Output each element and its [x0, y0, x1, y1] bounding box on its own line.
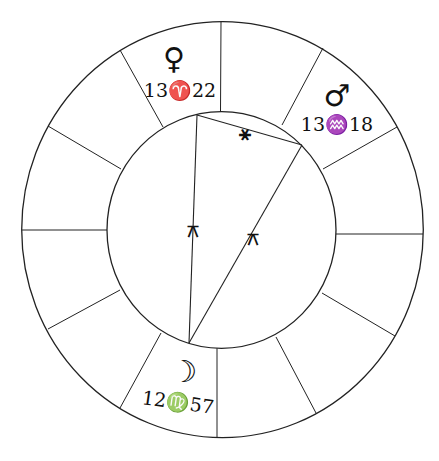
mars-position: 13♒18 — [301, 113, 373, 136]
aspect-lines — [189, 115, 302, 343]
aspect-line-mars-moon — [189, 145, 302, 343]
house-dividers — [22, 22, 423, 438]
house-divider — [48, 126, 121, 169]
house-divider — [221, 22, 222, 112]
quincunx-icon: ⚻ — [247, 228, 259, 249]
astrology-chart-wheel: ⚹ ⚻ ⚻ ♀ 13♈22 ♂ 13♒18 ☽ 12♍57 — [0, 0, 439, 461]
quincunx-icon: ⚻ — [187, 220, 199, 241]
mars-icon: ♂ — [324, 78, 351, 113]
planet-mars: ♂ 13♒18 — [301, 78, 373, 136]
inner-ring — [107, 112, 336, 349]
venus-icon: ♀ — [163, 41, 185, 76]
sextile-icon: ⚹ — [239, 121, 251, 145]
planet-venus: ♀ 13♈22 — [144, 41, 216, 102]
moon-position: 12♍57 — [141, 386, 216, 419]
house-divider — [48, 290, 120, 329]
planet-moon: ☽ 12♍57 — [141, 354, 216, 419]
house-divider — [322, 293, 395, 336]
moon-icon: ☽ — [171, 354, 198, 389]
house-divider — [276, 337, 316, 413]
venus-position: 13♈22 — [144, 79, 216, 102]
